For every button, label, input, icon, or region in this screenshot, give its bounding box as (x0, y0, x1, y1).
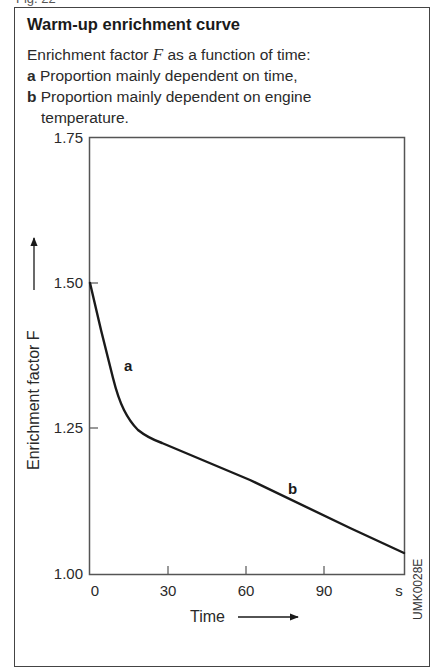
y-axis-label-text: Enrichment factor F (25, 330, 42, 470)
curve-label-b: b (288, 480, 297, 497)
x-tick-label: 60 (238, 582, 255, 599)
x-tick-label: 0 (91, 582, 99, 599)
enrichment-curve (90, 283, 404, 553)
plot-area (90, 138, 405, 575)
y-axis-title: Enrichment factor F (25, 330, 42, 470)
figure-code-text: UMK0028E (411, 559, 425, 620)
y-axis: 1.75 1.50 1.25 1.00 (54, 129, 98, 582)
x-tick-label: 30 (160, 582, 177, 599)
y-tick-label: 1.25 (54, 419, 83, 436)
y-axis-label: Enrichment factor F (25, 330, 42, 470)
x-axis-label: Time (190, 608, 225, 625)
y-tick-label: 1.75 (54, 129, 83, 146)
x-tick-label: 90 (316, 582, 333, 599)
curve-label-a: a (124, 357, 133, 374)
y-tick-label: 1.00 (54, 565, 83, 582)
x-axis: 0 30 60 90 s (91, 566, 403, 599)
x-unit-label: s (395, 582, 403, 599)
y-tick-label: 1.50 (54, 274, 83, 291)
figure-code: UMK0028E (411, 559, 425, 620)
